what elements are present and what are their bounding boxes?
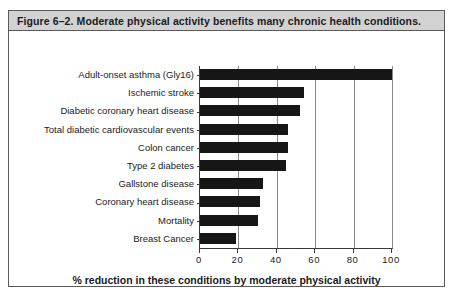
y-axis-tick: [197, 93, 200, 94]
y-axis-label: Total diabetic cardiovascular events: [44, 121, 199, 139]
bar: [200, 178, 263, 189]
bar: [200, 87, 304, 98]
x-axis-tick: [199, 249, 200, 253]
y-axis-tick: [197, 184, 200, 185]
y-axis-label: Mortality: [158, 212, 199, 230]
bar-row: [200, 193, 392, 211]
bar-row: [200, 121, 392, 139]
bar-row: [200, 212, 392, 230]
bar-row: [200, 84, 392, 102]
bar: [200, 160, 286, 171]
y-axis-label: Gallstone disease: [118, 175, 199, 193]
x-axis-tick: [237, 249, 238, 253]
bar: [200, 124, 288, 135]
y-axis-label: Breast Cancer: [133, 230, 199, 248]
y-axis-tick: [197, 239, 200, 240]
x-axis-tick-label: 60: [308, 254, 320, 265]
y-axis-label: Type 2 diabetes: [127, 157, 199, 175]
y-axis-category-labels: Adult-onset asthma (Gly16)Ischemic strok…: [9, 66, 199, 248]
y-axis-label: Diabetic coronary heart disease: [60, 102, 199, 120]
bar-row: [200, 157, 392, 175]
bar: [200, 69, 392, 80]
bar: [200, 105, 300, 116]
bar-row: [200, 139, 392, 157]
y-axis-label: Colon cancer: [138, 139, 199, 157]
y-axis-tick: [197, 166, 200, 167]
bar-row: [200, 230, 392, 248]
bar-series: [200, 66, 392, 248]
x-axis-tick: [314, 249, 315, 253]
y-axis-tick: [197, 112, 200, 113]
x-axis-tick-label: 20: [232, 254, 244, 265]
y-axis-label: Adult-onset asthma (Gly16): [78, 66, 199, 84]
x-axis: 020406080100: [199, 249, 392, 269]
y-axis-tick: [197, 203, 200, 204]
x-axis-tick: [276, 249, 277, 253]
bar-row: [200, 175, 392, 193]
y-axis-tick: [197, 221, 200, 222]
x-axis-title: % reduction in these conditions by moder…: [9, 274, 444, 286]
y-axis-tick: [197, 130, 200, 131]
x-axis-tick: [391, 249, 392, 253]
bar-chart: Adult-onset asthma (Gly16)Ischemic strok…: [9, 31, 444, 286]
y-axis-label: Coronary heart disease: [95, 193, 199, 211]
figure-frame: Figure 6–2. Moderate physical activity b…: [8, 10, 445, 287]
x-axis-tick-label: 100: [382, 254, 400, 265]
bar: [200, 196, 260, 207]
y-axis-label: Ischemic stroke: [128, 84, 199, 102]
plot-area: [199, 66, 393, 249]
figure-caption: Figure 6–2. Moderate physical activity b…: [9, 11, 444, 31]
x-axis-tick: [353, 249, 354, 253]
x-axis-tick-label: 40: [270, 254, 282, 265]
y-axis-tick: [197, 75, 200, 76]
bar: [200, 215, 258, 226]
x-axis-tick-label: 0: [196, 254, 202, 265]
bar-row: [200, 102, 392, 120]
bar-row: [200, 66, 392, 84]
gridline-100: [392, 66, 393, 248]
x-axis-tick-label: 80: [347, 254, 359, 265]
y-axis-tick: [197, 148, 200, 149]
bar: [200, 142, 288, 153]
bar: [200, 233, 236, 244]
